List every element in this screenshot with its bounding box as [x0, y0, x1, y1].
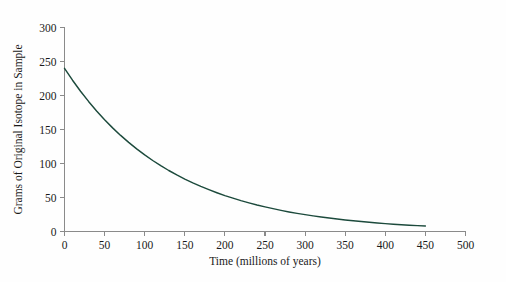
- y-tick-label: 0: [51, 226, 57, 238]
- y-tick-label: 200: [39, 90, 57, 102]
- x-tick-label: 0: [62, 239, 68, 251]
- chart-figure: 050100150200250300 050100150200250300350…: [0, 0, 506, 282]
- y-tick-label: 300: [39, 22, 57, 34]
- x-tick-label: 200: [216, 239, 234, 251]
- exponential-decay-chart: 050100150200250300 050100150200250300350…: [0, 0, 506, 282]
- x-tick-label: 150: [176, 239, 194, 251]
- y-tick-label: 50: [45, 192, 57, 204]
- x-tick-label: 500: [457, 239, 475, 251]
- x-tick-label: 250: [256, 239, 274, 251]
- x-tick-label: 300: [296, 239, 314, 251]
- y-tick-label: 100: [39, 158, 57, 170]
- x-tick-label: 450: [417, 239, 435, 251]
- x-tick-label: 100: [136, 239, 154, 251]
- y-axis-title: Grams of Original Isotope in Sample: [12, 44, 25, 214]
- x-tick-label: 350: [337, 239, 355, 251]
- y-tick-label: 150: [39, 124, 57, 136]
- x-axis-title: Time (millions of years): [209, 255, 321, 268]
- x-tick-label: 400: [377, 239, 395, 251]
- y-tick-label: 250: [39, 56, 57, 68]
- x-tick-label: 50: [99, 239, 111, 251]
